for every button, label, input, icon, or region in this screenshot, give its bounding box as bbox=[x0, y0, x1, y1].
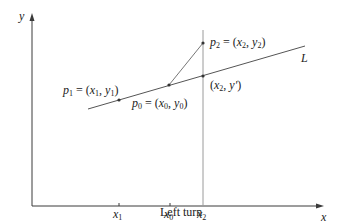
point-p2 bbox=[201, 41, 204, 44]
point-p1 bbox=[117, 98, 120, 101]
tick-label-x1: x1 bbox=[113, 208, 122, 222]
label-projection: (x2, y′) bbox=[210, 79, 241, 93]
left-turn-diagram bbox=[0, 0, 348, 223]
label-p1: p1 = (x1, y1) bbox=[63, 84, 118, 98]
x-axis-label: x bbox=[321, 211, 326, 223]
point-projection bbox=[201, 74, 204, 77]
segment-p0-p2 bbox=[169, 43, 203, 85]
y-axis-label: y bbox=[19, 10, 24, 22]
point-p0 bbox=[167, 83, 170, 86]
x-axis-arrow-icon bbox=[316, 204, 324, 209]
line-L-label: L bbox=[301, 52, 308, 64]
caption: Left turn bbox=[160, 206, 202, 218]
y-axis-arrow-icon bbox=[30, 13, 35, 21]
label-p0: p0 = (x0, y0) bbox=[132, 97, 187, 111]
line-L bbox=[88, 46, 305, 109]
label-p2: p2 = (x2, y2) bbox=[210, 36, 265, 50]
